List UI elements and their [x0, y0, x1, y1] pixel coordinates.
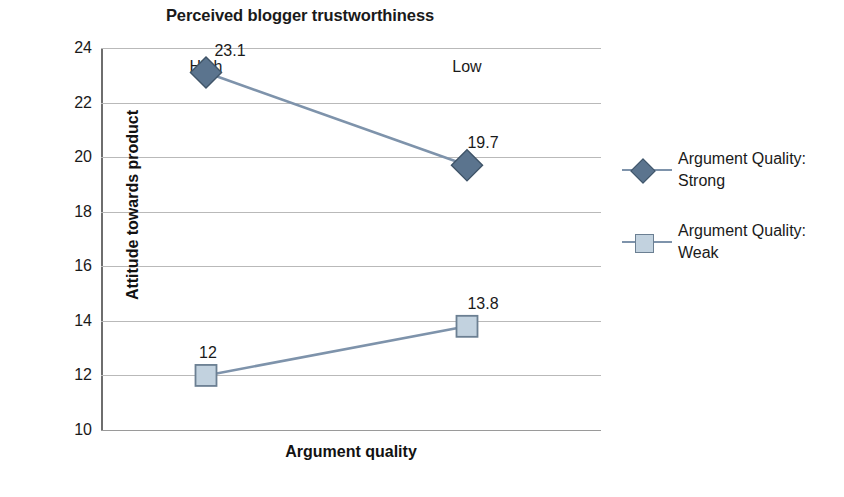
legend-label-strong-line1: Argument Quality: — [678, 148, 806, 170]
legend-label-strong-line2: Strong — [678, 170, 806, 192]
data-label-strong-high: 23.1 — [185, 42, 275, 60]
x-axis-title: Argument quality — [101, 443, 601, 461]
y-tick-20: 20 — [46, 148, 92, 166]
legend-entry-strong[interactable]: Argument Quality: Strong — [622, 148, 837, 192]
y-tick-10: 10 — [46, 421, 92, 439]
y-tick-24: 24 — [46, 39, 92, 57]
legend-label-strong: Argument Quality: Strong — [678, 148, 806, 192]
gridline-14 — [101, 321, 601, 322]
gridline-18 — [101, 212, 601, 213]
plot-area: Attitude towards product — [101, 48, 601, 430]
legend-label-weak-line2: Weak — [678, 242, 806, 264]
legend-entry-weak[interactable]: Argument Quality: Weak — [622, 220, 837, 264]
gridline-16 — [101, 266, 601, 267]
data-label-strong-low: 19.7 — [438, 134, 528, 152]
chart-title: Perceived blogger trustworthiness — [0, 6, 600, 25]
chart-legend: Argument Quality: Strong Argument Qualit… — [622, 148, 837, 292]
y-axis-title: Attitude towards product — [124, 55, 142, 355]
y-tick-16: 16 — [46, 257, 92, 275]
chart-figure: Perceived blogger trustworthiness High L… — [0, 0, 844, 497]
y-tick-12: 12 — [46, 366, 92, 384]
bottom-caption — [60, 486, 820, 497]
legend-label-weak: Argument Quality: Weak — [678, 220, 806, 264]
gridline-12 — [101, 375, 601, 376]
data-label-weak-low: 13.8 — [438, 295, 528, 313]
legend-key-strong — [622, 158, 672, 182]
diamond-marker-icon — [630, 158, 655, 183]
gridline-20 — [101, 157, 601, 158]
gridline-10 — [101, 430, 601, 431]
square-marker-icon — [635, 234, 654, 253]
y-tick-14: 14 — [46, 312, 92, 330]
legend-label-weak-line1: Argument Quality: — [678, 220, 806, 242]
gridline-22 — [101, 103, 601, 104]
data-label-weak-high: 12 — [163, 344, 253, 362]
y-tick-18: 18 — [46, 203, 92, 221]
legend-key-weak — [622, 230, 672, 254]
gridline-24 — [101, 48, 601, 49]
y-tick-22: 22 — [46, 94, 92, 112]
